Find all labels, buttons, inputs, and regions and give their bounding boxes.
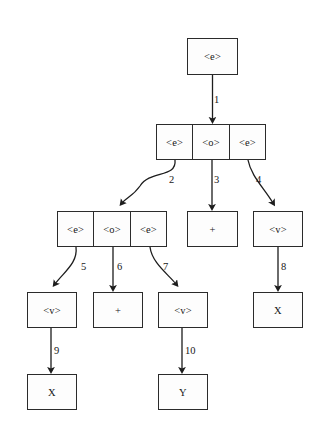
node-level3-e-o-e[interactable]: <e><o><e> [57, 211, 167, 247]
edge-5 [55, 247, 76, 284]
edge-1-label: 1 [214, 94, 219, 105]
node-level2-e-o-e-cell-0: <e> [157, 125, 192, 159]
node-level4-x[interactable]: X [253, 292, 303, 328]
node-level3-v-cell-0: <v> [254, 212, 302, 246]
node-level5-x[interactable]: X [27, 374, 77, 410]
node-level4-plus-cell-0: + [94, 293, 142, 327]
node-level3-e-o-e-cell-2: <e> [130, 212, 166, 246]
node-level3-plus-cell-0: + [188, 212, 237, 246]
node-level4-plus[interactable]: + [93, 292, 143, 328]
edge-2-label: 2 [169, 174, 174, 185]
node-level4-v-right-cell-0: <v> [159, 293, 207, 327]
edge-7-label: 7 [163, 261, 168, 272]
node-level2-e-o-e-cell-2: <e> [229, 125, 265, 159]
edge-10-label: 10 [185, 345, 196, 356]
edge-2 [122, 160, 175, 203]
node-root-e-cell-0: <e> [188, 39, 237, 74]
edge-4-label: 4 [256, 174, 261, 185]
edge-3-label: 3 [214, 174, 219, 185]
node-level4-x-cell-0: X [254, 293, 302, 327]
node-level2-e-o-e[interactable]: <e><o><e> [156, 124, 266, 160]
node-level2-e-o-e-cell-1: <o> [192, 125, 229, 159]
node-level4-v-right[interactable]: <v> [158, 292, 208, 328]
edge-9-label: 9 [54, 345, 59, 356]
node-level3-plus[interactable]: + [187, 211, 238, 247]
edge-8-label: 8 [281, 261, 286, 272]
diagram-canvas: <e><e><o><e><e><o><e>+<v><v>+<v>XXY 1234… [0, 0, 319, 439]
edge-5-label: 5 [81, 261, 86, 272]
node-level5-y-cell-0: Y [159, 375, 207, 409]
node-level4-v-left-cell-0: <v> [28, 293, 76, 327]
node-root-e[interactable]: <e> [187, 38, 238, 75]
node-level5-y[interactable]: Y [158, 374, 208, 410]
node-level3-v[interactable]: <v> [253, 211, 303, 247]
node-level3-e-o-e-cell-1: <o> [93, 212, 130, 246]
node-level4-v-left[interactable]: <v> [27, 292, 77, 328]
node-level3-e-o-e-cell-0: <e> [58, 212, 93, 246]
node-level5-x-cell-0: X [28, 375, 76, 409]
edge-6-label: 6 [117, 261, 122, 272]
